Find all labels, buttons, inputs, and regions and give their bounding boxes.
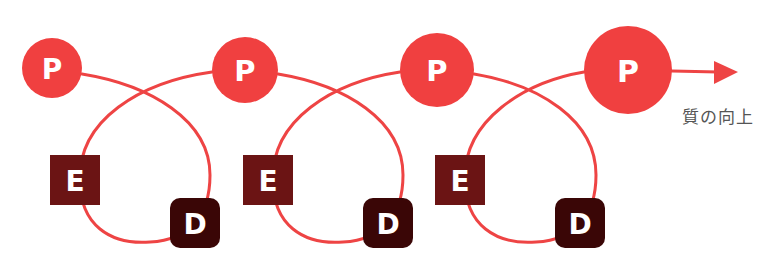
svg-text:P: P xyxy=(617,54,639,89)
svg-text:E: E xyxy=(258,165,277,198)
arrow-head-icon xyxy=(714,61,738,84)
p-node-3: P xyxy=(400,33,474,107)
d-node-1: D xyxy=(170,198,220,248)
p-node-2: P xyxy=(212,37,278,103)
svg-text:E: E xyxy=(65,165,84,198)
svg-text:D: D xyxy=(568,208,591,241)
svg-text:P: P xyxy=(42,53,63,86)
svg-text:D: D xyxy=(376,208,399,241)
e-node-3: E xyxy=(435,155,485,205)
svg-text:P: P xyxy=(426,54,447,88)
e-node-1: E xyxy=(50,155,100,205)
quality-improvement-caption: 質の向上 xyxy=(682,103,754,128)
p-node-1: P xyxy=(22,38,82,98)
p-node-4: P xyxy=(584,26,672,114)
d-node-3: D xyxy=(555,198,605,248)
e-node-2: E xyxy=(243,155,293,205)
svg-text:D: D xyxy=(183,208,206,241)
ped-cycle-diagram: P P P P E E E D D D xyxy=(0,0,781,266)
progress-arrow-line xyxy=(672,71,718,72)
svg-text:E: E xyxy=(450,165,469,198)
d-node-2: D xyxy=(363,198,413,248)
svg-text:P: P xyxy=(234,54,255,88)
